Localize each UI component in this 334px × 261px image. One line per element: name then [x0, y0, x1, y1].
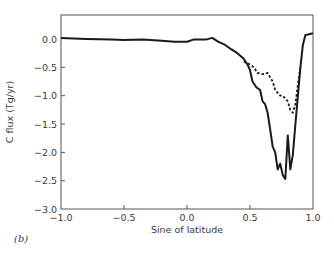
- y-tick-label: −2.5: [34, 175, 57, 186]
- x-tick-label: 1.0: [305, 212, 320, 223]
- x-axis: −1.0−0.50.00.51.0: [49, 205, 320, 223]
- series-dashed-line: [244, 62, 301, 113]
- panel-label: (b): [14, 233, 28, 244]
- y-tick-label: −0.5: [34, 62, 57, 73]
- y-axis-title: C flux (Tg/yr): [4, 81, 15, 143]
- chart: −1.0−0.50.00.51.0 0.0−0.5−1.0−1.5−2.0−2.…: [0, 0, 334, 261]
- plot-area: [61, 15, 313, 209]
- y-tick-label: −1.0: [34, 90, 57, 101]
- y-tick-label: −3.0: [34, 204, 57, 215]
- y-tick-label: 0.0: [42, 34, 57, 45]
- series-solid-line: [61, 33, 313, 179]
- x-tick-label: 0.5: [242, 212, 257, 223]
- x-tick-label: −0.5: [112, 212, 135, 223]
- y-axis: 0.0−0.5−1.0−1.5−2.0−2.5−3.0: [34, 34, 65, 215]
- plot-frame: [61, 15, 313, 209]
- x-tick-label: 0.0: [179, 212, 194, 223]
- x-axis-title: Sine of latitude: [151, 224, 223, 235]
- y-tick-label: −2.0: [34, 147, 57, 158]
- y-tick-label: −1.5: [34, 119, 57, 130]
